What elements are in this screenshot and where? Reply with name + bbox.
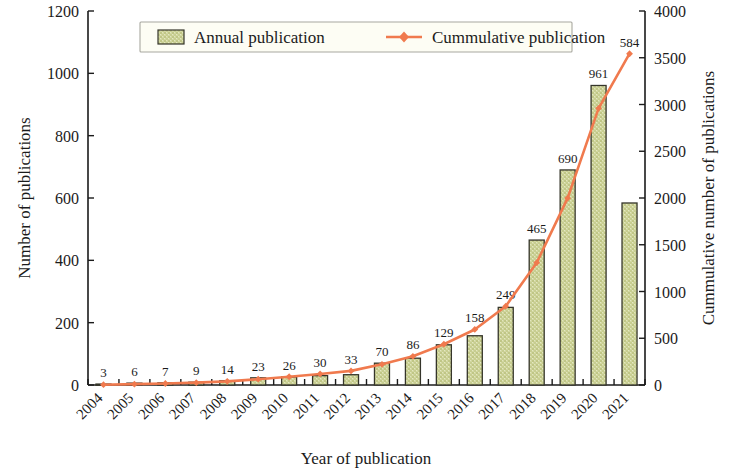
bar xyxy=(467,336,482,385)
bar-value-label: 33 xyxy=(345,352,358,367)
y2-tick-label: 3500 xyxy=(654,50,686,67)
bar-value-label: 86 xyxy=(406,337,420,352)
y-tick-label: 200 xyxy=(55,315,79,332)
y2-tick-label: 500 xyxy=(654,330,678,347)
bar-value-label: 465 xyxy=(527,221,547,236)
chart-legend: Annual publication Cummulative publicati… xyxy=(140,22,606,52)
y2-tick-label: 0 xyxy=(654,377,662,394)
y2-tick-label: 3000 xyxy=(654,97,686,114)
bar-value-label: 7 xyxy=(162,364,169,379)
y-tick-label: 800 xyxy=(55,128,79,145)
y2-tick-label: 2000 xyxy=(654,190,686,207)
bar-value-label: 690 xyxy=(558,151,578,166)
bar-value-label: 584 xyxy=(620,35,640,50)
bar xyxy=(591,85,606,385)
bar-value-label: 30 xyxy=(314,355,327,370)
bar xyxy=(436,345,451,385)
bar xyxy=(560,170,575,385)
bar xyxy=(344,375,359,385)
legend-label-annual-publication: Annual publication xyxy=(194,28,325,47)
y2-tick-label: 1000 xyxy=(654,284,686,301)
y2-tick-label: 1500 xyxy=(654,237,686,254)
bar-value-label: 3 xyxy=(100,365,107,380)
bar-value-label: 23 xyxy=(252,359,265,374)
bar-value-label: 26 xyxy=(283,358,297,373)
y-tick-label: 400 xyxy=(55,252,79,269)
bar-value-label: 6 xyxy=(131,364,138,379)
bar-value-label: 9 xyxy=(193,363,200,378)
legend-label-cummulative-publication: Cummulative publication xyxy=(432,28,606,47)
y-tick-label: 1000 xyxy=(47,65,79,82)
y-tick-label: 600 xyxy=(55,190,79,207)
y2-tick-label: 2500 xyxy=(654,143,686,160)
bar-value-label: 14 xyxy=(221,362,235,377)
publications-chart: 020040060080010001200 050010001500200025… xyxy=(0,0,733,475)
legend-swatch-annual-publication xyxy=(158,30,184,44)
bar xyxy=(405,358,420,385)
bar xyxy=(622,203,637,385)
y2-axis-title: Cummulative number of publications xyxy=(699,71,718,326)
x-axis-title: Year of publication xyxy=(301,449,432,468)
y-tick-label: 1200 xyxy=(47,3,79,20)
y-tick-label: 0 xyxy=(71,377,79,394)
bar xyxy=(498,307,513,385)
bar-value-label: 961 xyxy=(589,66,609,81)
y-axis-title: Number of publications xyxy=(15,117,34,278)
bar-value-label: 129 xyxy=(434,325,454,340)
y2-tick-label: 4000 xyxy=(654,3,686,20)
bar-value-label: 70 xyxy=(375,344,388,359)
